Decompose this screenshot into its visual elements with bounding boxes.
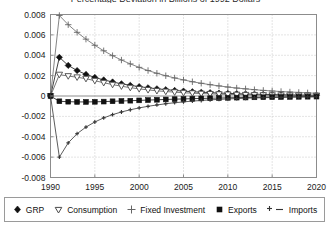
data-point-marker [110,99,115,104]
data-point-marker [128,108,132,112]
data-point-marker [137,98,142,103]
data-point-marker [66,99,71,104]
data-point-marker [136,64,142,70]
chart-legend: GRPConsumptionFixed InvestmentExportsImp… [4,197,325,222]
data-point-marker [83,36,89,42]
data-point-marker [163,73,169,79]
y-tick-label: 0.006 [24,30,46,40]
data-point-marker [118,57,124,63]
data-point-marker [93,120,97,124]
data-point-marker [137,106,141,110]
filled-square-icon [214,204,225,215]
open-triangle-down-icon [53,204,64,215]
series-fixed-investment [47,12,319,99]
x-tick-label: 2015 [263,182,282,192]
x-tick-label: 2020 [307,182,326,192]
data-point-marker [207,81,213,87]
y-tick-label: 0.004 [24,50,46,60]
legend-item-imports[interactable]: Imports [266,204,317,215]
x-tick-label: 1990 [41,182,60,192]
x-tick-label: 1995 [85,182,104,192]
data-point-marker [57,99,62,104]
legend-item-consumption[interactable]: Consumption [53,204,117,215]
y-tick-label: -0.006 [21,152,45,162]
data-point-marker [120,110,124,114]
y-tick-label: -0.002 [21,111,45,121]
data-point-marker [84,100,89,105]
x-axis-ticks: 1990199520002005201020152020 [41,175,326,192]
legend-label: Exports [228,205,257,215]
series-imports [49,94,319,159]
data-point-marker [155,103,159,107]
data-point-marker [164,102,168,106]
data-point-marker [242,86,248,92]
x-tick-label: 2005 [174,182,193,192]
y-tick-label: 0 [41,91,46,101]
legend-item-grp[interactable]: GRP [12,204,44,215]
data-point-marker [251,86,257,92]
data-point-marker [145,67,151,73]
legend-item-exports[interactable]: Exports [214,204,257,215]
data-point-marker [101,48,107,54]
data-point-marker [225,84,231,90]
data-point-marker [234,85,240,91]
chart-figure: Percentage Deviation in Billions of 1992… [0,0,331,227]
y-tick-label: 0.008 [24,10,46,20]
legend-item-fixed-investment[interactable]: Fixed Investment [126,204,205,215]
legend-label: GRP [26,205,44,215]
data-point-marker [189,79,195,85]
data-point-marker [127,61,133,67]
y-tick-label: 0.002 [24,71,46,81]
plus-icon [126,204,137,215]
data-point-marker [57,155,61,159]
x-tick-label: 2010 [218,182,237,192]
chart-svg: 0.0080.0060.0040.0020-0.002-0.004-0.006-… [0,0,331,191]
data-point-marker [101,99,106,104]
data-point-marker [146,98,151,103]
data-point-marker [163,97,168,102]
filled-diamond-icon [12,204,23,215]
small-plus-dash-icon [266,204,286,215]
data-point-marker [92,99,97,104]
data-point-marker [128,98,133,103]
data-point-marker [180,77,186,83]
x-tick-label: 2000 [130,182,149,192]
data-point-marker [155,97,160,102]
legend-label: Consumption [67,205,117,215]
data-point-marker [119,99,124,104]
data-point-marker [75,100,80,105]
plot-area-container: 0.0080.0060.0040.0020-0.002-0.004-0.006-… [0,0,331,191]
data-point-marker [198,80,204,86]
data-point-marker [216,83,222,89]
legend-label: Imports [289,205,317,215]
data-point-marker [92,42,98,48]
legend-label: Fixed Investment [140,205,205,215]
data-point-marker [146,104,150,108]
y-tick-label: -0.004 [21,132,45,142]
data-point-marker [74,67,80,73]
data-point-marker [109,52,115,58]
